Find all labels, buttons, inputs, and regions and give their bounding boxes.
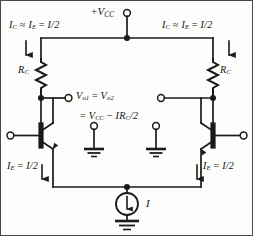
npn-transistor-icon-left[interactable] xyxy=(7,98,53,187)
resistor-icon-right xyxy=(208,59,218,98)
vcc-supply-node xyxy=(124,10,131,38)
npn-transistor-icon-right[interactable] xyxy=(201,98,247,187)
open-terminal-icon-base-right[interactable] xyxy=(240,132,247,139)
resistor-label-right: RC xyxy=(220,65,231,76)
vcc-open-terminal-icon[interactable] xyxy=(124,10,131,17)
current-source-icon[interactable] xyxy=(116,187,138,221)
open-terminal-icon-vo2[interactable] xyxy=(158,95,165,102)
open-terminal-icon-gnd-left[interactable] xyxy=(91,123,98,130)
resistor-label-left: RC xyxy=(18,65,29,76)
resistor-icon-left xyxy=(36,59,46,98)
ground-terminal-left-middle[interactable] xyxy=(84,123,104,157)
vcc-label: +VCC xyxy=(91,6,114,19)
open-terminal-icon-base-left[interactable] xyxy=(7,132,14,139)
output-voltage-line2: = VCC − IRC/2 xyxy=(80,111,138,122)
open-terminal-icon-vo1[interactable] xyxy=(65,95,72,102)
output-terminal-left[interactable] xyxy=(41,95,72,102)
ground-terminal-right-middle[interactable] xyxy=(146,123,166,157)
left-collector-current-label: IC ≈ IE = I/2 xyxy=(9,20,59,31)
right-collector-current-label: IC ≈ IE = I/2 xyxy=(162,20,212,31)
output-terminal-right[interactable] xyxy=(158,95,213,102)
ground-icon-left xyxy=(84,149,104,157)
right-branch-wiring xyxy=(208,38,218,132)
ground-icon-right xyxy=(146,149,166,157)
left-emitter-current-label: IE = I/2 xyxy=(7,161,38,172)
current-source-label: I xyxy=(146,198,150,209)
circuit-diagram-page: +VCC IC ≈ IE = I/2 IC ≈ IE = I/2 RC RC V… xyxy=(0,0,253,236)
junction-dot-icon-top xyxy=(124,35,130,41)
output-voltage-line1: Vo1 = Vo2 xyxy=(76,91,114,102)
left-branch-wiring xyxy=(36,38,46,132)
open-terminal-icon-gnd-right[interactable] xyxy=(153,123,160,130)
right-emitter-current-label: IE = I/2 xyxy=(203,161,234,172)
ground-icon-source xyxy=(115,221,139,230)
